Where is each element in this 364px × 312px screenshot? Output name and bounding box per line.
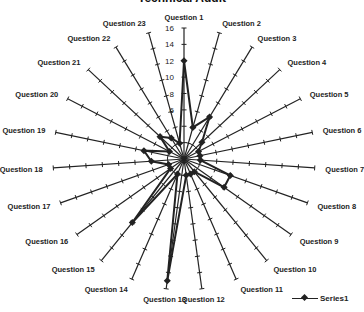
axis-label: Question 22 <box>67 34 110 43</box>
axis-tick <box>204 79 209 80</box>
data-point-marker <box>164 277 171 284</box>
radar-plot-area: Question 1Question 2Question 3Question 4… <box>0 0 364 312</box>
axis-label: Question 19 <box>2 126 45 135</box>
axis-tick <box>146 32 151 33</box>
axis-label: Question 17 <box>8 202 51 211</box>
axis-label: Question 3 <box>258 34 297 43</box>
tick-label: 10 <box>165 73 174 82</box>
radar-chart: Technical Audit Question 1Question 2Ques… <box>0 0 364 312</box>
tick-label: 14 <box>165 40 174 49</box>
legend: Series1 <box>292 292 348 304</box>
axis-tick <box>173 127 178 128</box>
data-point-marker <box>227 172 234 179</box>
axis-label: Question 12 <box>182 295 225 304</box>
axis-label: Question 10 <box>273 265 316 274</box>
axis-tick <box>186 191 191 192</box>
axis-label: Question 9 <box>300 237 339 246</box>
axis-tick <box>71 133 72 138</box>
axis-label: Question 6 <box>323 126 362 135</box>
axis-label: Question 21 <box>38 58 81 67</box>
axis-tick <box>195 111 200 112</box>
axis-tick <box>193 240 198 241</box>
axis-tick <box>175 207 180 208</box>
axis-label: Question 13 <box>143 295 186 304</box>
tick-label: 6 <box>170 106 175 115</box>
axis-label: Question 15 <box>52 265 95 274</box>
axis-label: Question 2 <box>222 19 261 28</box>
data-point-marker <box>180 57 187 64</box>
axis-tick <box>197 272 202 273</box>
tick-label: 12 <box>165 57 174 66</box>
axis-label: Question 1 <box>165 13 204 22</box>
axis-tick <box>312 130 313 135</box>
axis-label: Question 11 <box>240 285 283 294</box>
axis-tick <box>160 79 165 80</box>
legend-label-series1: Series1 <box>320 294 348 303</box>
axis-label: Question 16 <box>25 237 68 246</box>
axis-tick <box>164 95 169 96</box>
axis-label: Question 23 <box>103 19 146 28</box>
axis-tick <box>199 288 204 289</box>
axis-tick <box>208 64 213 65</box>
axis-label: Question 5 <box>310 90 349 99</box>
axis-label: Question 20 <box>15 90 58 99</box>
axis-tick <box>87 137 88 142</box>
axis-tick <box>55 130 56 135</box>
axis-tick <box>135 147 136 152</box>
axis-tick <box>190 224 195 225</box>
axis-tick <box>280 137 281 142</box>
axis-tick <box>155 64 160 65</box>
axis-tick <box>213 48 218 49</box>
axis-label: Question 18 <box>0 165 43 174</box>
axis-tick <box>296 133 297 138</box>
axis-tick <box>248 143 249 148</box>
tick-label: 16 <box>165 24 174 33</box>
tick-label: 8 <box>170 90 175 99</box>
axis-label: Question 4 <box>288 58 328 67</box>
axis-tick <box>232 147 233 152</box>
axis-label: Question 14 <box>85 285 129 294</box>
axis-label: Question 8 <box>317 202 356 211</box>
axis-tick <box>216 150 217 155</box>
axis-tick <box>264 140 265 145</box>
axis-label: Question 7 <box>325 165 364 174</box>
chart-title: Technical Audit <box>0 0 364 5</box>
legend-marker-icon <box>292 293 318 303</box>
axis-tick <box>119 143 120 148</box>
axis-tick <box>217 32 222 33</box>
axis-tick <box>103 140 104 145</box>
axis-tick <box>164 288 169 289</box>
axis-tick <box>167 153 168 158</box>
data-point-marker <box>197 157 204 164</box>
axis-tick <box>186 143 191 144</box>
axis-tick <box>199 95 204 96</box>
axis-tick <box>177 191 182 192</box>
axis-tick <box>195 256 200 257</box>
axis-tick <box>188 207 193 208</box>
axis-tick <box>151 48 156 49</box>
